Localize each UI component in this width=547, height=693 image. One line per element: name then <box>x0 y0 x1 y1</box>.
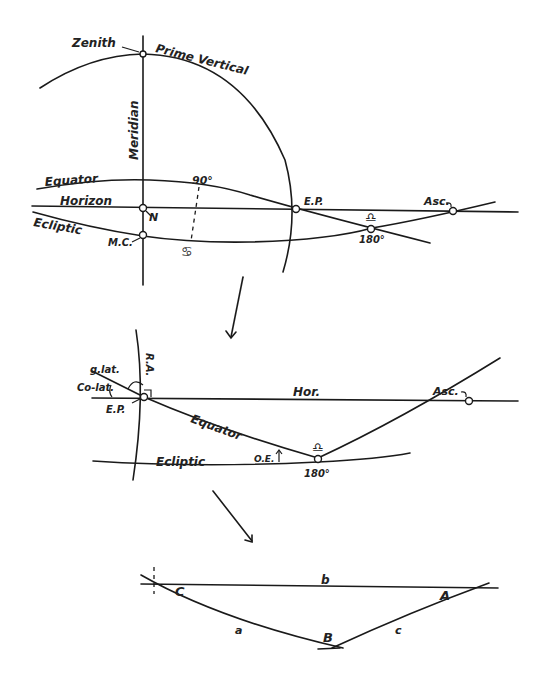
asc-point-1 <box>450 208 457 215</box>
horizon-label-1: Horizon <box>60 194 112 208</box>
zenith-pointer <box>122 47 139 52</box>
hor-label: Hor. <box>293 385 320 399</box>
libra-point-2 <box>315 456 322 463</box>
mc-point <box>140 232 147 239</box>
zenith-point <box>140 51 146 57</box>
down-arrow-2-shaft <box>213 491 252 541</box>
geo-lat-label: g.lat. <box>90 364 120 375</box>
equator-label-2: Equator <box>189 412 245 444</box>
asc-label-1: Asc. <box>423 195 450 208</box>
north-label: N <box>149 211 158 224</box>
ra-arc <box>133 330 140 480</box>
ep-label-2: E.P. <box>106 404 125 415</box>
arrow-1 <box>226 277 243 338</box>
ninety-degree-dashed-line <box>191 187 199 241</box>
asc-point-2 <box>466 398 473 405</box>
colat-label: Co-lat. <box>77 382 114 393</box>
label-C: C <box>175 584 185 599</box>
ecliptic-curve-1 <box>33 202 495 242</box>
label-c: c <box>395 624 402 637</box>
ra-label: R.A. <box>144 353 155 376</box>
label-b: b <box>321 573 330 587</box>
ecliptic-label-1: Ecliptic <box>32 215 83 237</box>
meridian-label: Meridian <box>127 101 141 160</box>
libra-glyph-1: ♎ <box>365 210 377 225</box>
north-point <box>140 205 147 212</box>
panel-2-spherical-triangle-setup: R.A. g.lat. Co-lat. E.P. Hor. Asc. Equat… <box>77 330 518 480</box>
one-eighty-label-1: 180° <box>359 234 385 245</box>
ep-pointer-2 <box>132 399 140 403</box>
equator-label-1: Equator <box>44 171 99 189</box>
cancer-glyph: ♋ <box>181 244 193 259</box>
oe-label: O.E. <box>254 454 274 464</box>
one-eighty-label-2: 180° <box>304 468 330 479</box>
libra-glyph-2: ♎ <box>312 440 324 455</box>
asc-label-2: Asc. <box>432 385 459 398</box>
vertex-B-tick <box>318 648 340 649</box>
libra-point-1 <box>368 226 375 233</box>
label-a: a <box>235 624 242 637</box>
ecliptic-curve-2 <box>93 453 410 465</box>
ecliptic-label-2: Ecliptic <box>156 455 205 469</box>
prime-vertical-label: Prime Vertical <box>154 41 250 78</box>
ep-point-2 <box>141 394 148 401</box>
asc-pointer-2 <box>461 392 466 397</box>
ninety-degree-label: 90° <box>192 174 213 187</box>
side-c-curve <box>332 583 489 648</box>
label-B: B <box>323 630 333 645</box>
ep-label-1: E.P. <box>304 196 323 207</box>
spherical-astronomy-diagram: Zenith Prime Vertical Meridian Equator H… <box>0 0 547 693</box>
ep-point-1 <box>293 206 300 213</box>
arrow-2 <box>213 491 252 542</box>
down-arrow-1-shaft <box>231 277 243 337</box>
label-A: A <box>439 588 450 603</box>
mc-label: M.C. <box>108 237 133 248</box>
panel-1-celestial-sphere: Zenith Prime Vertical Meridian Equator H… <box>32 36 518 285</box>
zenith-label: Zenith <box>71 36 116 50</box>
panel-3-spherical-triangle: b C A a B c <box>141 567 498 649</box>
mc-pointer <box>132 238 140 242</box>
